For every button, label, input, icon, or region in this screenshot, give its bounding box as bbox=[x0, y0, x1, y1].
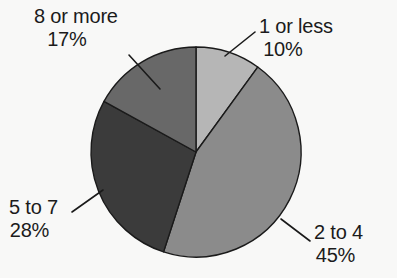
pie-label-8-or-more-name: 8 or more bbox=[34, 5, 118, 28]
pie-label-1-or-less-percent: 10% bbox=[259, 38, 333, 61]
pie-label-2-to-4-name: 2 to 4 bbox=[314, 221, 363, 244]
pie-label-1-or-less: 1 or less 10% bbox=[259, 15, 333, 61]
pie-slice-group bbox=[91, 47, 301, 257]
pie-label-5-to-7-name: 5 to 7 bbox=[9, 196, 58, 219]
pie-label-1-or-less-name: 1 or less bbox=[259, 15, 333, 38]
pie-chart: 8 or more 17% 1 or less 10% 5 to 7 28% 2… bbox=[0, 0, 397, 278]
pie-label-8-or-more: 8 or more 17% bbox=[34, 5, 118, 51]
leader-line-1-or-less bbox=[225, 32, 255, 56]
leader-line-2-to-4 bbox=[281, 219, 310, 241]
leader-line-5-to-7 bbox=[72, 190, 103, 212]
pie-label-5-to-7-percent: 28% bbox=[9, 219, 58, 242]
pie-label-2-to-4: 2 to 4 45% bbox=[314, 221, 363, 267]
pie-label-8-or-more-percent: 17% bbox=[34, 28, 118, 51]
pie-label-2-to-4-percent: 45% bbox=[314, 244, 363, 267]
pie-label-5-to-7: 5 to 7 28% bbox=[9, 196, 58, 242]
